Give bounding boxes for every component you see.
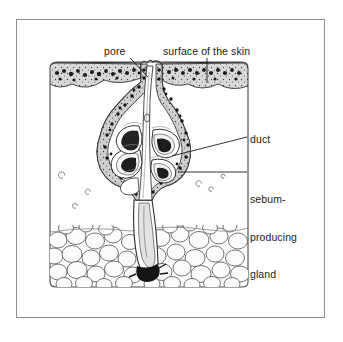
label-duct: duct bbox=[250, 133, 270, 146]
label-sebum-line-3: gland bbox=[250, 268, 297, 281]
label-sebum-line-2: producing bbox=[250, 231, 297, 244]
label-sebum-producing-gland: sebum- producing gland bbox=[250, 168, 297, 306]
label-surface-of-the-skin: surface of the skin bbox=[163, 45, 250, 58]
label-sebum-line-1: sebum- bbox=[250, 193, 297, 206]
figure-root: pore surface of the skin duct sebum- pro… bbox=[0, 0, 343, 342]
label-pore: pore bbox=[104, 45, 125, 58]
